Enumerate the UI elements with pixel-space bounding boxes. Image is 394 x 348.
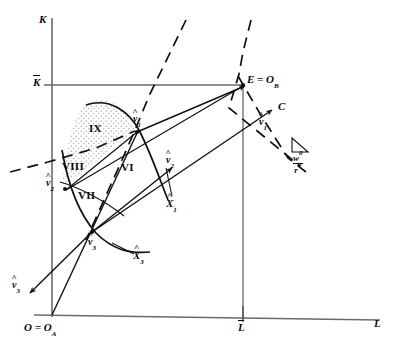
k-bar-tick-label: K (33, 77, 40, 88)
corner-label-e: E = OB (247, 74, 279, 88)
region-label-vii: VII (78, 190, 95, 201)
region-label-vi: VI (121, 162, 134, 173)
production-diagram-figure: K L K L O = OA E = OB C ^v1 ^v1 ^v2 ^v2 … (0, 0, 394, 348)
region-label-viii: VIII (62, 161, 84, 172)
ray-v1-to-E (137, 86, 245, 132)
point-label-v1-hat-right: ^v1 (259, 117, 267, 130)
axis-label-k: K (39, 14, 46, 25)
l-bar-tick-label: L (238, 322, 245, 333)
point-label-v3-hat: ^v3 (88, 237, 96, 250)
diagram-canvas (0, 0, 394, 348)
point-label-v2-hat-right: ^v2 (166, 155, 174, 168)
ray-o-to-v3-arrow (30, 230, 94, 293)
dashed-ray-right (229, 20, 300, 166)
point-label-v1-hat: ^v1 (133, 114, 141, 127)
origin-label: O = OA (24, 322, 56, 336)
region-ix-shading (62, 100, 135, 188)
isoquant-label-x3: ^X3 (133, 250, 144, 264)
point-label-v3-hat-arrow: ^v3 (12, 280, 20, 293)
point-label-c: C (278, 101, 285, 112)
x3-leader-line (112, 243, 134, 254)
isoquant-label-x1: ^X1 (166, 198, 177, 212)
wage-rental-ratio-label: w0 r0 (293, 152, 303, 176)
point-label-v2-hat-left: ^v2 (46, 178, 54, 191)
region-label-ix: IX (89, 123, 102, 134)
axis-label-l: L (374, 318, 381, 329)
